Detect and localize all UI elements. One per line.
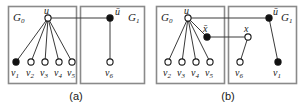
node-v3[interactable] (42, 59, 48, 65)
caption-panel-b: (b) (152, 90, 304, 102)
node-xbar-b[interactable] (204, 34, 210, 40)
node-label-v4-b: v4 (191, 67, 199, 80)
node-ubar[interactable] (107, 15, 113, 21)
node-v2[interactable] (28, 59, 34, 65)
node-label-v6-b: v6 (235, 67, 243, 80)
figure-container: G0 G1 u ū v1 (0, 0, 304, 102)
node-label-v3-b: v3 (177, 67, 185, 80)
box-label-g0-panel-b: G0 (161, 11, 173, 25)
node-label-v1: v1 (11, 67, 19, 80)
node-v2-b[interactable] (165, 59, 171, 65)
node-label-x-b: x (243, 23, 249, 34)
node-label-v2-b: v2 (163, 67, 171, 80)
node-label-u-b: u (184, 5, 189, 16)
edge-group-panel-b (168, 18, 278, 62)
edge-u-v5 (48, 18, 72, 62)
box-label-g1-panel-b: G1 (281, 11, 292, 25)
caption-panel-a: (a) (0, 90, 152, 102)
node-v5[interactable] (69, 59, 75, 65)
node-label-v3: v3 (40, 67, 48, 80)
node-ubar-b[interactable] (266, 15, 272, 21)
node-v1-b[interactable] (275, 59, 281, 65)
node-label-v6: v6 (105, 67, 113, 80)
node-label-v2: v2 (26, 67, 34, 80)
panel-b: G0 G1 u x̄ (152, 0, 304, 102)
node-label-v5: v5 (67, 67, 75, 80)
node-label-u: u (44, 5, 49, 16)
node-v6-b[interactable] (237, 59, 243, 65)
box-label-g1-panel-a: G1 (128, 11, 139, 25)
node-label-v5-b: v5 (205, 67, 213, 80)
panel-a-graphics: G0 G1 u ū v1 (0, 0, 152, 102)
edge-ubar-v1-b (269, 18, 278, 62)
node-label-v4: v4 (54, 67, 62, 80)
box-label-g0-panel-a: G0 (13, 11, 25, 25)
node-label-v1-b: v1 (273, 67, 281, 80)
node-v5-b[interactable] (207, 59, 213, 65)
node-v6[interactable] (107, 59, 113, 65)
node-v3-b[interactable] (179, 59, 185, 65)
node-label-xbar-b: x̄ (202, 23, 208, 34)
edge-u-v4 (48, 18, 59, 62)
node-label-ubar-b: ū (273, 6, 278, 17)
node-v4[interactable] (56, 59, 62, 65)
edge-x-v6-b (240, 37, 248, 62)
panel-a: G0 G1 u ū v1 (0, 0, 152, 102)
node-label-ubar: ū (115, 6, 120, 17)
edge-group-panel-a (16, 18, 110, 62)
panel-b-graphics: G0 G1 u x̄ (152, 0, 304, 102)
node-x-b[interactable] (245, 34, 251, 40)
node-v1[interactable] (13, 59, 19, 65)
node-v4-b[interactable] (193, 59, 199, 65)
